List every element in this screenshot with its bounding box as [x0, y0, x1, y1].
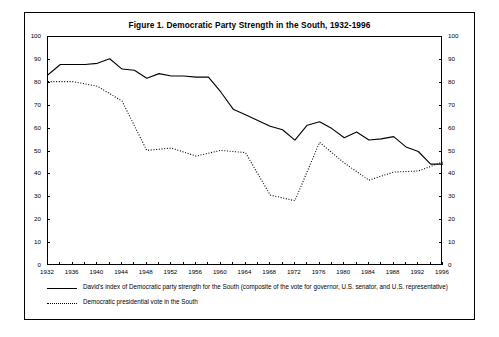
x-axis-tick-label: 1944: [109, 269, 133, 275]
x-axis-tick-mark: [170, 262, 171, 265]
y-axis-tick-mark: [439, 219, 442, 220]
y-axis-tick-label-right: 70: [448, 102, 464, 108]
y-axis-tick-label-left: 60: [25, 125, 41, 131]
y-axis-tick-label-right: 20: [448, 216, 464, 222]
y-axis-tick-mark: [47, 105, 50, 106]
x-axis-tick-label: 1972: [282, 269, 306, 275]
y-axis-tick-label-left: 10: [25, 239, 41, 245]
y-axis-tick-label-right: 0: [448, 262, 464, 268]
x-axis-tick-mark: [442, 262, 443, 265]
y-axis-tick-mark: [439, 59, 442, 60]
x-axis-tick-mark: [207, 262, 208, 265]
x-axis-tick-mark: [269, 262, 270, 265]
y-axis-tick-mark: [439, 242, 442, 243]
x-axis-tick-mark: [245, 262, 246, 265]
chart-lines: [48, 37, 443, 266]
y-axis-tick-mark: [47, 242, 50, 243]
y-axis-tick-mark: [439, 173, 442, 174]
x-axis-tick-mark: [195, 262, 196, 265]
x-axis-tick-mark: [183, 262, 184, 265]
x-axis-tick-label: 1976: [307, 269, 331, 275]
y-axis-tick-mark: [47, 151, 50, 152]
x-axis-tick-mark: [368, 262, 369, 265]
y-axis-tick-mark: [439, 128, 442, 129]
x-axis-tick-mark: [146, 262, 147, 265]
x-axis-tick-mark: [72, 262, 73, 265]
legend-swatch-dotted-line-icon: [47, 303, 77, 306]
x-axis-tick-mark: [47, 262, 48, 265]
x-axis-tick-mark: [282, 262, 283, 265]
x-axis-tick-mark: [417, 262, 418, 265]
y-axis-tick-label-right: 30: [448, 193, 464, 199]
x-axis-tick-label: 1984: [356, 269, 380, 275]
x-axis-tick-label: 1968: [257, 269, 281, 275]
x-axis-tick-label: 1940: [84, 269, 108, 275]
y-axis-tick-mark: [439, 82, 442, 83]
y-axis-tick-mark: [439, 105, 442, 106]
y-axis-tick-label-left: 50: [25, 148, 41, 154]
x-axis-tick-label: 1956: [183, 269, 207, 275]
y-axis-tick-label-right: 80: [448, 79, 464, 85]
series-david-index: [48, 59, 443, 164]
x-axis-tick-mark: [84, 262, 85, 265]
x-axis-tick-mark: [405, 262, 406, 265]
legend-label: David's index of Democratic party streng…: [83, 282, 448, 291]
x-axis-tick-mark: [59, 262, 60, 265]
y-axis-tick-label-left: 90: [25, 56, 41, 62]
x-axis-tick-label: 1952: [158, 269, 182, 275]
y-axis-tick-label-left: 40: [25, 170, 41, 176]
figure-page: Figure 1. Democratic Party Strength in t…: [0, 0, 499, 337]
y-axis-tick-label-left: 100: [25, 33, 41, 39]
y-axis-tick-mark: [47, 128, 50, 129]
x-axis-tick-mark: [121, 262, 122, 265]
page-title: Figure 1. Democratic Party Strength in t…: [24, 20, 475, 30]
legend-swatch-solid-line-icon: [47, 288, 77, 291]
x-axis-tick-mark: [257, 262, 258, 265]
y-axis-tick-label-left: 70: [25, 102, 41, 108]
x-axis-tick-mark: [356, 262, 357, 265]
x-axis-tick-label: 1992: [405, 269, 429, 275]
x-axis-tick-mark: [319, 262, 320, 265]
y-axis-tick-label-right: 100: [448, 33, 464, 39]
y-axis-tick-label-right: 40: [448, 170, 464, 176]
y-axis-tick-label-right: 90: [448, 56, 464, 62]
x-axis-tick-mark: [306, 262, 307, 265]
y-axis-tick-label-right: 60: [448, 125, 464, 131]
x-axis-tick-label: 1948: [134, 269, 158, 275]
y-axis-tick-mark: [439, 151, 442, 152]
y-axis-tick-mark: [47, 59, 50, 60]
series-presidential-vote: [48, 82, 443, 201]
y-axis-tick-label-left: 80: [25, 79, 41, 85]
y-axis-tick-label-left: 30: [25, 193, 41, 199]
x-axis-tick-mark: [158, 262, 159, 265]
legend-item-presidential-vote: Democratic presidential vote in the Sout…: [47, 297, 467, 312]
x-axis-tick-label: 1936: [60, 269, 84, 275]
x-axis-tick-mark: [96, 262, 97, 265]
y-axis-tick-mark: [47, 82, 50, 83]
x-axis-tick-mark: [343, 262, 344, 265]
x-axis-tick-label: 1932: [35, 269, 59, 275]
legend-label: Democratic presidential vote in the Sout…: [83, 297, 198, 306]
x-axis-tick-mark: [294, 262, 295, 265]
x-axis-tick-mark: [232, 262, 233, 265]
y-axis-tick-mark: [47, 219, 50, 220]
x-axis-tick-mark: [109, 262, 110, 265]
y-axis-tick-label-left: 20: [25, 216, 41, 222]
x-axis-tick-label: 1964: [233, 269, 257, 275]
x-axis-tick-mark: [331, 262, 332, 265]
x-axis-tick-mark: [133, 262, 134, 265]
y-axis-tick-label-right: 10: [448, 239, 464, 245]
chart-legend: David's index of Democratic party streng…: [47, 282, 467, 312]
y-axis-tick-label-left: 0: [25, 262, 41, 268]
x-axis-tick-label: 1960: [208, 269, 232, 275]
plot-area: [47, 36, 442, 265]
y-axis-tick-mark: [47, 196, 50, 197]
y-axis-tick-mark: [439, 196, 442, 197]
y-axis-tick-mark: [47, 173, 50, 174]
x-axis-tick-mark: [380, 262, 381, 265]
x-axis-tick-mark: [220, 262, 221, 265]
y-axis-tick-label-right: 50: [448, 148, 464, 154]
legend-item-david-index: David's index of Democratic party streng…: [47, 282, 467, 297]
x-axis-tick-label: 1996: [430, 269, 454, 275]
x-axis-tick-mark: [393, 262, 394, 265]
